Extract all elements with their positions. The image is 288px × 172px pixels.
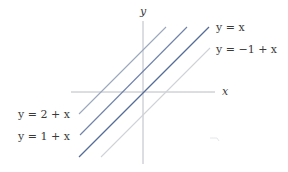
line-y-eq-1-plus-x <box>80 27 187 135</box>
faint-mark <box>210 138 219 141</box>
line-y-eq-minus1-plus-x <box>101 48 210 157</box>
label-y-eq-2-plus-x: y = 2 + x <box>17 108 71 121</box>
y-axis-label: y <box>139 5 147 18</box>
chart-figure: y x y = x y = −1 + x y = 2 + x y = 1 + x <box>0 0 288 172</box>
label-y-eq-minus1-plus-x: y = −1 + x <box>215 43 278 56</box>
label-y-eq-x: y = x <box>215 21 245 34</box>
x-axis-label: x <box>222 85 229 98</box>
label-y-eq-1-plus-x: y = 1 + x <box>17 130 71 143</box>
line-y-eq-2-plus-x <box>79 27 166 114</box>
